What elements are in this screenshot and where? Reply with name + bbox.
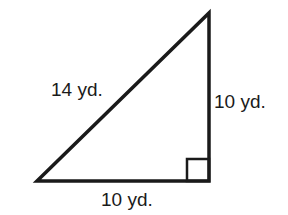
hypotenuse-label: 14 yd.	[51, 79, 103, 100]
right-angle-marker	[187, 159, 209, 181]
horizontal-leg-label: 10 yd.	[101, 189, 153, 210]
vertical-leg-label: 10 yd.	[214, 91, 266, 112]
triangle-diagram: 14 yd. 10 yd. 10 yd.	[0, 0, 288, 215]
